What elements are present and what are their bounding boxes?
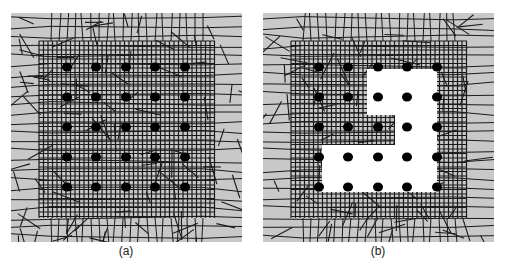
caption-a: (a) — [106, 244, 146, 258]
mesh-graphic-a — [11, 13, 242, 242]
caption-b: (b) — [358, 244, 398, 258]
mesh-panel-b — [263, 13, 494, 242]
mesh-panel-a — [11, 13, 242, 242]
mesh-graphic-b — [263, 13, 494, 242]
